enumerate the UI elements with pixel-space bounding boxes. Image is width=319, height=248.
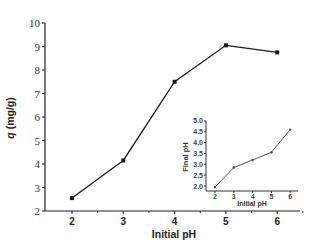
inset-axes [206,121,298,191]
inset-data-line [215,130,290,188]
inset-y-tick-label: 3.5 [193,150,203,157]
y-tick-label: 9 [35,41,41,53]
inset-x-ticks: 23456 [213,191,292,200]
y-axis-label-unit: (mg/g) [4,97,16,132]
inset-x-tick-label: 2 [213,193,217,200]
y-tick-label: 2 [35,205,41,217]
inset-x-tick-label: 3 [232,193,236,200]
data-point [70,196,74,200]
y-tick-label: 4 [35,158,41,170]
x-tick-label: 3 [121,216,127,227]
y-ticks: 2345678910 [29,17,45,217]
inset-y-tick-label: 2.0 [193,183,203,190]
x-tick-label: 4 [172,216,178,227]
x-axis-label: Initial pH [152,228,196,240]
y-tick-label: 10 [29,17,41,29]
inset-x-tick-label: 4 [251,193,255,200]
y-tick-label: 7 [35,88,41,100]
inset-data-point [214,186,216,188]
y-tick-label: 8 [35,64,41,76]
data-point [224,43,228,47]
inset-data-point [233,166,235,168]
data-point [173,80,177,84]
inset-y-tick-label: 3.0 [193,161,203,168]
data-line [72,45,277,198]
main-axes [45,23,300,211]
data-point [275,50,279,54]
inset-y-ticks: 2.02.53.03.54.04.55.0 [193,117,206,189]
inset-y-tick-label: 2.5 [193,172,203,179]
inset-data-markers [214,128,292,188]
inset-y-axis-label: Final pH [181,142,190,172]
inset-x-tick-label: 5 [269,193,273,200]
y-tick-label: 3 [35,182,41,194]
x-tick-label: 2 [69,216,75,227]
inset-x-tick-label: 6 [288,193,292,200]
inset-data-point [289,128,291,130]
inset-y-tick-label: 5.0 [193,117,203,124]
inset-data-point [251,159,253,161]
x-tick-label: 5 [223,216,229,227]
y-tick-label: 5 [35,135,41,147]
inset-data-point [270,151,272,153]
y-tick-label: 6 [35,111,41,123]
y-axis-label: q (mg/g) [4,97,16,138]
x-tick-label: 6 [274,216,280,227]
inset-y-tick-label: 4.0 [193,139,203,146]
data-point [121,158,125,162]
x-ticks: 23456 [69,211,303,227]
inset-x-axis-label: Initial pH [237,200,267,208]
chart: 2345678910 23456 Initial pH q (mg/g) 2.0… [0,0,319,248]
inset-y-tick-label: 4.5 [193,128,203,135]
